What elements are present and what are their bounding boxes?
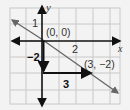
run-label: 3 [63, 79, 69, 90]
x-axis-label: x [118, 44, 122, 54]
tick-label-x-2: 2 [72, 44, 78, 55]
point-label-origin: (0, 0) [46, 27, 71, 38]
tick-label-y-1: 1 [32, 18, 38, 29]
y-axis-label: y [46, 2, 51, 13]
rise-label: −2 [27, 52, 40, 63]
point-label-3-neg2: (3, −2) [84, 59, 115, 70]
coordinate-plane [0, 0, 130, 110]
